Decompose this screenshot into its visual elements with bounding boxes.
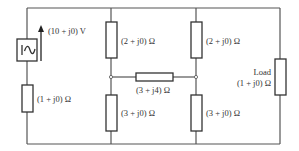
circuit-diagram: (10 + j0) V (1 + j0) Ω (2 + j0) Ω (3 + j… (0, 0, 299, 151)
load-label: (1 + j0) Ω (237, 78, 271, 88)
resistor-top-right-label: (2 + j0) Ω (206, 36, 240, 46)
impedance-bridge-label: (3 + j4) Ω (136, 85, 170, 95)
impedance-bridge (136, 73, 173, 81)
resistor-top-left-label: (2 + j0) Ω (121, 36, 155, 46)
voltage-arrow-icon (38, 25, 44, 61)
resistor-load (275, 59, 286, 95)
ac-voltage-source (17, 39, 37, 61)
junction-node-right (194, 75, 197, 78)
junction-node-left (109, 75, 112, 78)
load-title: Load (254, 67, 272, 77)
resistor-top-left (106, 22, 117, 58)
resistor-bottom-right-label: (3 + j0) Ω (206, 108, 240, 118)
resistor-source-label: (1 + j0) Ω (37, 94, 71, 104)
resistor-bottom-left (106, 95, 117, 131)
resistor-source (22, 85, 33, 112)
resistor-top-right (191, 22, 202, 58)
resistor-bottom-left-label: (3 + j0) Ω (121, 108, 155, 118)
resistor-bottom-right (191, 95, 202, 131)
source-voltage-label: (10 + j0) V (48, 26, 87, 36)
